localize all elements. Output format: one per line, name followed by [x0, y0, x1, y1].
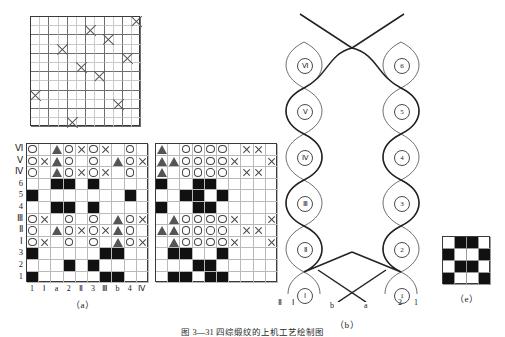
cross-symbol [76, 225, 87, 236]
circle-symbol [88, 237, 99, 248]
triangle-symbol [112, 214, 124, 226]
circle-symbol [205, 167, 217, 179]
empty-cell [168, 190, 180, 202]
empty-cell [455, 273, 467, 285]
circle-symbol [125, 156, 136, 167]
empty-cell [168, 260, 180, 272]
circle-symbol [193, 167, 205, 179]
filled-square [64, 202, 76, 214]
circle-symbol [193, 225, 204, 236]
draft-cell [95, 54, 104, 63]
draft-cell [86, 35, 95, 44]
empty-cell [100, 214, 112, 226]
draft-mark-cell [86, 26, 95, 35]
empty-cell [27, 202, 39, 214]
draft-cell [31, 26, 40, 35]
grid-a-row-label: 1 [4, 271, 23, 283]
draft-cell [123, 63, 132, 72]
braid-svg [270, 2, 435, 302]
circle-symbol [217, 167, 229, 179]
circle-symbol [27, 144, 39, 156]
triangle-symbol [51, 225, 63, 237]
braid-circle-label: 3 [400, 200, 404, 208]
draft-cell [49, 109, 58, 118]
filled-square [479, 249, 491, 261]
draft-cell [31, 54, 40, 63]
circle-symbol [125, 237, 136, 248]
circle-symbol [125, 144, 136, 155]
draft-cell [95, 109, 104, 118]
empty-cell [241, 202, 253, 214]
empty-cell [254, 248, 266, 260]
filled-square [205, 179, 217, 191]
empty-cell [39, 202, 51, 214]
circle-symbol [64, 156, 76, 168]
draft-cell [105, 54, 114, 63]
draft-cell [95, 45, 104, 54]
circle-symbol [180, 214, 191, 225]
circle-symbol [88, 225, 99, 236]
empty-cell [125, 260, 137, 272]
empty-cell [39, 225, 51, 237]
cross-symbol [241, 167, 252, 178]
circle-symbol [217, 144, 228, 155]
triangle-symbol [51, 156, 62, 167]
filled-square [51, 202, 63, 214]
braid-circle-left-3: Ⅲ [297, 196, 313, 212]
circle-symbol [27, 156, 39, 168]
filled-square [27, 272, 39, 284]
draft-cell [114, 63, 123, 72]
grid-a-row-label: Ⅳ [4, 166, 23, 178]
grid-a-col-label: 4 [124, 284, 136, 293]
triangle-symbol [156, 167, 167, 178]
empty-cell [137, 202, 149, 214]
empty-cell [112, 167, 124, 179]
filled-square [443, 273, 455, 285]
draft-cell [77, 72, 86, 81]
filled-square [51, 179, 63, 191]
filled-square [479, 273, 491, 285]
cross-symbol [76, 144, 88, 156]
empty-cell [39, 179, 51, 191]
braid-circle-label: 5 [400, 108, 404, 116]
grid-a-row-label: Ⅵ [4, 143, 23, 155]
triangle-symbol [168, 214, 179, 225]
empty-cell [137, 167, 149, 179]
empty-cell [193, 248, 205, 260]
draft-cell [114, 118, 123, 127]
triangle-symbol [156, 225, 167, 236]
empty-cell [479, 261, 491, 273]
empty-cell [51, 248, 63, 260]
empty-cell [51, 237, 63, 249]
draft-cell [123, 91, 132, 100]
draft-cell [68, 26, 77, 35]
braid-circle-label: Ⅲ [303, 200, 308, 208]
draft-cell [49, 100, 58, 109]
empty-cell [241, 156, 253, 168]
draft-cell [59, 26, 68, 35]
empty-cell [76, 272, 88, 284]
circle-symbol [180, 237, 191, 248]
draft-cell [59, 81, 68, 90]
cross-symbol [76, 225, 88, 237]
empty-cell [64, 248, 76, 260]
circle-symbol [193, 237, 205, 249]
draft-cell [95, 100, 104, 109]
circle-symbol [64, 214, 75, 225]
triangle-symbol [168, 214, 180, 226]
filled-square [217, 248, 229, 260]
draft-cell [132, 109, 141, 118]
circle-symbol [27, 214, 39, 226]
draft-cell [105, 109, 114, 118]
draft-cell [105, 72, 114, 81]
draft-cell [114, 26, 123, 35]
empty-cell [455, 249, 467, 261]
empty-cell [76, 190, 88, 202]
empty-cell [39, 144, 51, 156]
triangle-symbol [156, 144, 168, 156]
triangle-symbol [112, 156, 124, 168]
empty-cell [137, 225, 149, 237]
draft-grid [30, 16, 140, 126]
cross-symbol [254, 225, 265, 236]
empty-cell [100, 260, 112, 272]
